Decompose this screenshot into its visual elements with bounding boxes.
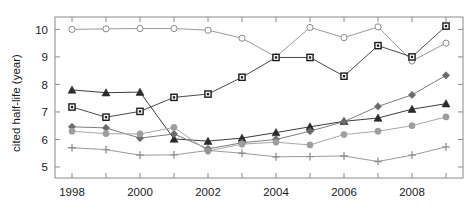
data-point-plus <box>136 151 144 159</box>
data-point-open-circle <box>239 35 245 41</box>
data-point-open-square <box>343 75 345 77</box>
data-point-filled-diamond <box>374 103 381 110</box>
x-tick-label: 2002 <box>195 186 221 198</box>
line-chart: 5678910 199820002002200420062008 cited h… <box>0 0 475 214</box>
data-point-filled-circle <box>409 123 415 129</box>
data-point-plus <box>272 153 280 161</box>
data-point-filled-triangle <box>68 86 76 93</box>
data-point-open-circle <box>375 24 381 30</box>
data-point-plus <box>340 152 348 160</box>
y-axis-title: cited half-life (year) <box>10 54 22 152</box>
data-point-filled-circle <box>341 131 347 137</box>
series-line <box>72 26 446 117</box>
y-tick-label: 7 <box>42 106 48 118</box>
data-point-plus <box>306 153 314 161</box>
data-point-open-circle <box>307 24 313 30</box>
x-axis-ticks <box>72 17 446 178</box>
series-line <box>72 117 446 151</box>
data-point-open-circle <box>205 27 211 33</box>
data-point-plus <box>408 151 416 159</box>
chart-container: 5678910 199820002002200420062008 cited h… <box>0 0 475 214</box>
data-point-plus <box>102 146 110 154</box>
series-plus <box>68 143 450 165</box>
data-point-filled-triangle <box>442 100 450 107</box>
data-point-open-circle <box>69 26 75 32</box>
y-tick-label: 9 <box>42 51 48 63</box>
x-tick-label: 1998 <box>59 186 85 198</box>
data-point-open-square <box>173 96 175 98</box>
data-point-open-circle <box>137 25 143 31</box>
data-point-open-circle <box>443 40 449 46</box>
data-point-filled-circle <box>443 114 449 120</box>
data-point-filled-circle <box>137 131 143 137</box>
y-tick-label: 10 <box>35 24 48 36</box>
data-point-plus <box>374 158 382 166</box>
data-point-plus <box>68 144 76 152</box>
series-filled-diamond <box>68 72 449 153</box>
series-line <box>72 75 446 148</box>
data-point-filled-circle <box>103 131 109 137</box>
x-axis-tick-labels: 199820002002200420062008 <box>59 186 425 198</box>
data-point-open-square <box>445 25 447 27</box>
data-point-filled-diamond <box>170 130 177 137</box>
data-point-open-circle <box>103 26 109 32</box>
data-point-filled-circle <box>171 124 177 130</box>
series-open-circle <box>69 24 449 64</box>
data-point-open-circle <box>341 35 347 41</box>
series-filled-triangle <box>68 86 450 144</box>
data-point-open-square <box>207 93 209 95</box>
data-point-open-square <box>309 56 311 58</box>
data-point-filled-diamond <box>442 72 449 79</box>
data-point-filled-circle <box>239 141 245 147</box>
data-point-open-square <box>105 116 107 118</box>
data-point-open-square <box>411 56 413 58</box>
y-tick-label: 8 <box>42 79 48 91</box>
series-open-square <box>69 23 449 120</box>
data-point-filled-circle <box>69 128 75 134</box>
data-point-open-square <box>275 56 277 58</box>
y-tick-label: 6 <box>42 134 48 146</box>
data-point-open-square <box>71 106 73 108</box>
series-line <box>72 27 446 61</box>
data-point-filled-circle <box>375 128 381 134</box>
x-tick-label: 2008 <box>399 186 425 198</box>
data-point-plus <box>170 151 178 159</box>
data-point-filled-circle <box>273 139 279 145</box>
x-tick-label: 2004 <box>263 186 289 198</box>
data-point-open-square <box>139 110 141 112</box>
plot-frame <box>55 17 463 178</box>
x-tick-label: 2006 <box>331 186 357 198</box>
series-filled-circle <box>69 114 449 154</box>
data-point-plus <box>238 149 246 157</box>
data-point-open-circle <box>171 25 177 31</box>
y-tick-label: 5 <box>42 161 48 173</box>
data-series-group <box>68 23 450 165</box>
data-point-filled-diamond <box>408 91 415 98</box>
data-point-open-square <box>241 76 243 78</box>
data-point-open-square <box>377 44 379 46</box>
y-axis-tick-labels: 5678910 <box>35 24 48 174</box>
data-point-plus <box>442 143 450 151</box>
x-tick-label: 2000 <box>127 186 153 198</box>
series-line <box>72 147 446 162</box>
data-point-filled-circle <box>307 142 313 148</box>
